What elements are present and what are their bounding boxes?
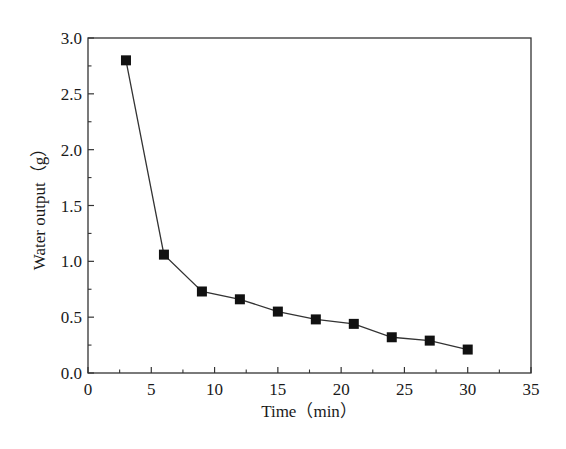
y-tick-label: 2.5 [61,85,82,104]
x-tick-label: 25 [396,380,413,399]
y-tick-label: 0.0 [61,364,82,383]
x-tick-label: 0 [84,380,93,399]
data-point-square-marker [273,307,283,317]
line-chart: 05101520253035 0.00.51.01.52.02.53.0 Tim… [0,0,566,449]
x-tick-label: 5 [147,380,156,399]
x-axis-label: Time（min） [261,402,357,421]
data-point-square-marker [159,250,169,260]
data-point-square-marker [197,286,207,296]
x-tick-label: 10 [206,380,223,399]
y-tick-label: 1.0 [61,252,82,271]
y-tick-label: 0.5 [61,308,82,327]
x-tick-label: 35 [523,380,540,399]
y-axis-label: Water output（g） [30,140,49,270]
x-axis-ticks: 05101520253035 [84,367,540,399]
data-point-square-marker [463,345,473,355]
data-point-square-marker [311,314,321,324]
x-tick-label: 30 [459,380,476,399]
data-point-square-marker [349,319,359,329]
data-point-square-marker [387,332,397,342]
y-axis-ticks: 0.00.51.01.52.02.53.0 [61,29,94,383]
y-tick-label: 3.0 [61,29,82,48]
x-tick-label: 15 [269,380,286,399]
data-series [121,55,473,354]
x-tick-label: 20 [333,380,350,399]
data-point-square-marker [121,55,131,65]
data-point-square-marker [235,294,245,304]
y-tick-label: 2.0 [61,141,82,160]
data-point-square-marker [425,336,435,346]
y-tick-label: 1.5 [61,197,82,216]
series-line [126,60,468,349]
